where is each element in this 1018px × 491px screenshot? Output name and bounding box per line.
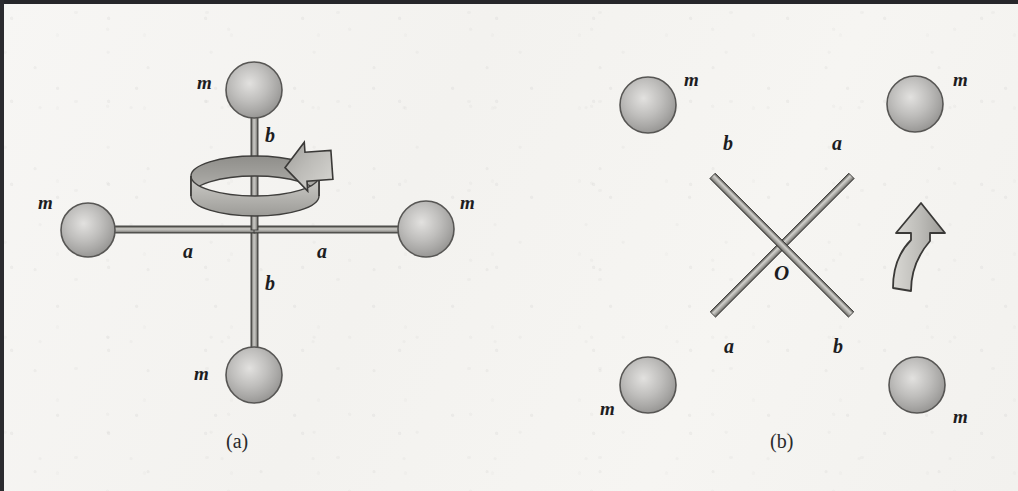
mass-label-b-bottom-left: m	[600, 398, 615, 420]
dimension-label-a-a-left: a	[183, 240, 193, 263]
mass-label-b-bottom-right: m	[953, 406, 968, 428]
mass-sphere-b-top-left	[620, 77, 676, 133]
mass-sphere-a-left	[61, 203, 115, 257]
physics-figure-drawing	[0, 0, 1018, 491]
panel-a-drawing	[61, 62, 454, 403]
dimension-label-a-b-upper: b	[265, 124, 275, 147]
mass-label-a-top: m	[197, 72, 212, 94]
panel-b-drawing	[620, 76, 945, 413]
figure-border-left	[0, 0, 4, 491]
mass-label-b-top-right: m	[953, 69, 968, 91]
dimension-label-b-b-lower-right: b	[833, 335, 843, 358]
mass-label-a-left: m	[38, 192, 53, 214]
mass-label-b-top-left: m	[684, 69, 699, 91]
mass-sphere-b-top-right	[887, 76, 943, 132]
origin-label-b: O	[774, 261, 789, 286]
dimension-label-a-a-right: a	[317, 240, 327, 263]
mass-label-a-bottom: m	[194, 363, 209, 385]
rotation-curved-arrow-icon	[893, 203, 945, 291]
mass-sphere-b-bottom-left	[620, 357, 676, 413]
panel-caption-b: (b)	[770, 430, 793, 453]
panel-caption-a: (a)	[226, 430, 248, 453]
mass-sphere-a-bottom	[226, 347, 282, 403]
mass-label-a-right: m	[460, 192, 475, 214]
figure-container: m b m a a m b m (a) m m b a O a b m m (b…	[0, 0, 1018, 491]
mass-sphere-a-top	[226, 62, 282, 118]
dimension-label-b-a-lower-left: a	[724, 335, 734, 358]
dimension-label-a-b-lower: b	[265, 272, 275, 295]
figure-border-top	[0, 0, 1018, 4]
mass-sphere-b-bottom-right	[889, 357, 945, 413]
dimension-label-b-b-upper-left: b	[723, 132, 733, 155]
mass-sphere-a-right	[398, 201, 454, 257]
dimension-label-b-a-upper-right: a	[832, 132, 842, 155]
